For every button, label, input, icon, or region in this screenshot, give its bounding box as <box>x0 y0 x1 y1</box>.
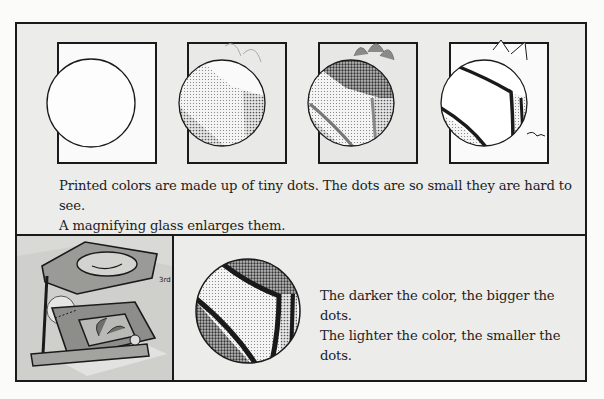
magnifier-circle-empty-icon <box>35 36 185 176</box>
magnifier-photo: 3rd <box>17 236 174 380</box>
magnifier-light-dots-icon <box>165 36 315 176</box>
photo-mark: 3rd <box>159 276 171 284</box>
bottom-illustration-panel: 3rd The darker the color, the bigger the… <box>15 234 587 382</box>
magnifier-dense-dots-icon <box>296 36 446 176</box>
top-caption-line-2: A magnifying glass enlarges them. <box>59 216 579 236</box>
top-illustration-panel: Printed colors are made up of tiny dots.… <box>15 22 587 236</box>
frame-stage-3 <box>318 42 418 164</box>
frame-stage-4 <box>449 42 549 164</box>
enlarged-dots-lens-icon <box>193 256 303 366</box>
magnifier-outline-icon <box>427 36 577 176</box>
folding-magnifier-icon: 3rd <box>17 236 172 380</box>
top-caption-line-1: Printed colors are made up of tiny dots.… <box>59 176 579 216</box>
frame-stage-1 <box>57 42 157 164</box>
bottom-caption: The darker the color, the bigger the dot… <box>320 286 580 366</box>
frame-stage-2 <box>187 42 287 164</box>
bottom-caption-line-2: The lighter the color, the smaller the d… <box>320 326 580 366</box>
top-caption: Printed colors are made up of tiny dots.… <box>59 176 579 236</box>
bottom-caption-line-1: The darker the color, the bigger the dot… <box>320 286 580 326</box>
